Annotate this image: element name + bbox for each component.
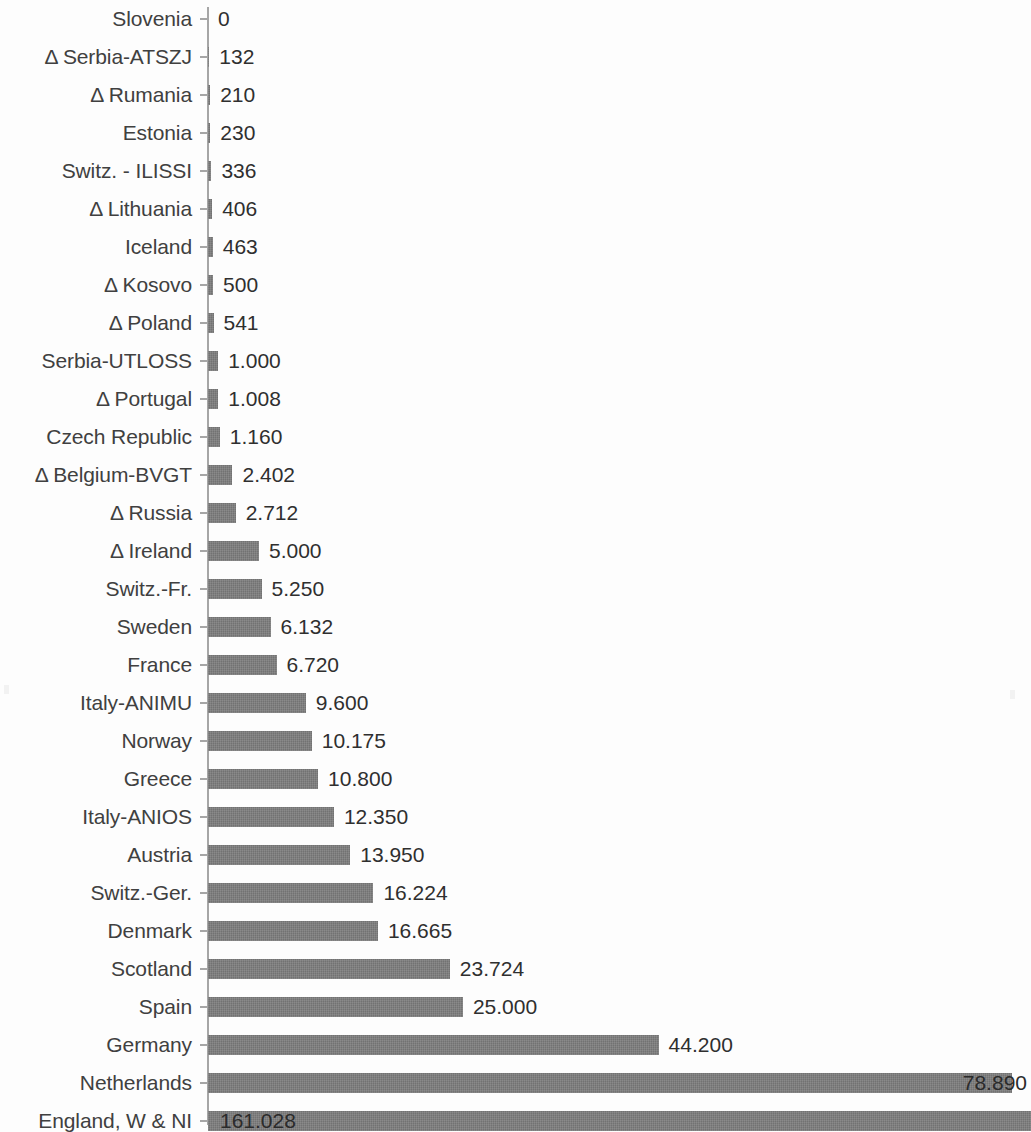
bar-value-label: 23.724 [460,950,524,988]
axis-tick [200,1082,208,1084]
bar [208,389,218,409]
chart-row: Italy-ANIOS12.350 [0,798,1031,836]
category-label: Greece [124,760,192,798]
bar-value-label: 10.800 [328,760,392,798]
bar [208,807,334,827]
category-label: Italy-ANIOS [82,798,192,836]
bar [208,465,232,485]
bar [208,275,213,295]
bar-value-label: 210 [220,76,255,114]
bar-value-label: 500 [223,266,258,304]
category-label: Italy-ANIMU [80,684,192,722]
bar-value-label: 1.008 [228,380,281,418]
bar [208,237,213,257]
bar-value-label: 12.350 [344,798,408,836]
axis-tick [200,626,208,628]
axis-tick [200,56,208,58]
bar [208,85,210,105]
chart-row: Greece10.800 [0,760,1031,798]
axis-tick [200,208,208,210]
chart-row: Austria13.950 [0,836,1031,874]
category-label: Netherlands [80,1064,192,1102]
bar-value-label: 336 [221,152,256,190]
bar-value-label: 6.132 [281,608,334,646]
category-label: Iceland [125,228,192,266]
bar [208,161,211,181]
axis-tick [200,968,208,970]
bar-value-label: 9.600 [316,684,369,722]
axis-tick [200,436,208,438]
bar [208,1111,1031,1131]
axis-tick [200,1120,208,1122]
category-label: Norway [121,722,192,760]
bar [208,693,306,713]
category-label: Δ Kosovo [104,266,192,304]
axis-tick [200,816,208,818]
chart-row: Δ Rumania210 [0,76,1031,114]
chart-row: Switz. - ILISSI336 [0,152,1031,190]
axis-tick [200,892,208,894]
category-label: Scotland [111,950,192,988]
axis-tick [200,360,208,362]
bar [208,427,220,447]
bar [208,769,318,789]
bar-value-label: 0 [218,0,230,38]
chart-row: Netherlands78.890 [0,1064,1031,1102]
chart-row: Italy-ANIMU9.600 [0,684,1031,722]
category-label: Czech Republic [46,418,192,456]
chart-row: Δ Ireland5.000 [0,532,1031,570]
category-label: Austria [127,836,192,874]
bar-value-label: 463 [223,228,258,266]
bar [208,199,212,219]
chart-row: Iceland463 [0,228,1031,266]
bar [208,997,463,1017]
category-label: Δ Serbia-ATSZJ [44,38,192,76]
axis-tick [200,588,208,590]
bar-value-label: 13.950 [360,836,424,874]
category-label: Germany [106,1026,192,1064]
axis-tick [200,94,208,96]
bar [208,655,277,675]
axis-tick [200,1044,208,1046]
chart-row: Δ Kosovo500 [0,266,1031,304]
category-label: Switz.-Fr. [106,570,193,608]
bar [208,123,210,143]
axis-tick [200,930,208,932]
axis-tick [200,1006,208,1008]
chart-row: France6.720 [0,646,1031,684]
bar-value-label: 161.028 [220,1102,296,1132]
bar-value-label: 6.720 [287,646,340,684]
bar-value-label: 406 [222,190,257,228]
bar [208,883,373,903]
bar-value-label: 5.000 [269,532,322,570]
chart-row: Switz.-Fr.5.250 [0,570,1031,608]
bar [208,541,259,561]
bar-value-label: 1.160 [230,418,283,456]
bar-value-label: 2.402 [242,456,295,494]
axis-tick [200,550,208,552]
chart-row: Scotland23.724 [0,950,1031,988]
category-label: Sweden [117,608,192,646]
axis-tick [200,854,208,856]
bar [208,959,450,979]
axis-tick [200,18,208,20]
bar [208,845,350,865]
bar [208,617,271,637]
bar [208,1035,659,1055]
bar [208,351,218,371]
axis-tick [200,512,208,514]
category-label: Switz.-Ger. [90,874,192,912]
category-label: Δ Rumania [90,76,192,114]
axis-tick [200,322,208,324]
axis-tick [200,474,208,476]
category-label: Serbia-UTLOSS [42,342,192,380]
chart-row: Norway10.175 [0,722,1031,760]
chart-row: Δ Lithuania406 [0,190,1031,228]
bar-value-label: 230 [220,114,255,152]
horizontal-bar-chart: Slovenia0Δ Serbia-ATSZJ132Δ Rumania210Es… [0,0,1031,1132]
bar-value-label: 10.175 [322,722,386,760]
category-label: England, W & NI [38,1102,192,1132]
category-label: Switz. - ILISSI [62,152,192,190]
category-label: Δ Lithuania [89,190,192,228]
bar [208,47,209,67]
